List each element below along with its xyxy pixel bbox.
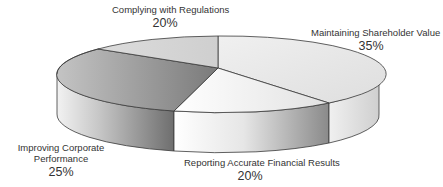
label-maintaining-pct: 35% — [311, 39, 431, 53]
label-improving: Improving Corporate Performance 25% — [16, 142, 106, 179]
label-maintaining: Maintaining Shareholder Value 35% — [311, 27, 431, 53]
label-improving-name-line1: Improving Corporate — [16, 142, 106, 153]
label-maintaining-name: Maintaining Shareholder Value — [311, 27, 440, 38]
label-reporting: Reporting Accurate Financial Results 20% — [184, 157, 316, 183]
label-improving-name-line2: Performance — [16, 153, 106, 164]
label-improving-pct: 25% — [16, 165, 106, 179]
label-reporting-pct: 20% — [184, 169, 316, 183]
label-complying-pct: 20% — [112, 16, 218, 30]
label-complying-name: Complying with Regulations — [112, 4, 229, 15]
label-reporting-name: Reporting Accurate Financial Results — [184, 157, 340, 168]
label-complying: Complying with Regulations 20% — [112, 4, 218, 30]
